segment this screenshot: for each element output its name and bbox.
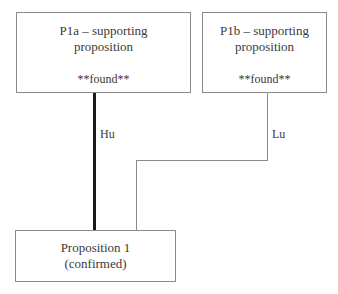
node-p1a-title: P1a – supporting proposition — [17, 23, 190, 55]
node-p1a-status: **found** — [17, 72, 190, 87]
node-p1a-title-line1: P1a – supporting — [17, 23, 190, 39]
node-p1a: P1a – supporting proposition **found** — [16, 12, 191, 93]
edge-p1b-prop1-vertical-lower — [136, 160, 137, 230]
edge-p1b-prop1-vertical-upper — [267, 93, 268, 161]
node-p1b-title-line2: proposition — [203, 39, 326, 55]
node-proposition-1-line2: (confirmed) — [16, 256, 175, 272]
node-p1b: P1b – supporting proposition **found** — [202, 12, 327, 93]
node-proposition-1-line1: Proposition 1 — [16, 240, 175, 256]
edge-p1a-prop1-label: Hu — [100, 127, 115, 142]
node-p1b-title: P1b – supporting proposition — [203, 23, 326, 55]
node-proposition-1-title: Proposition 1 (confirmed) — [16, 240, 175, 272]
node-proposition-1: Proposition 1 (confirmed) — [15, 230, 176, 282]
edge-p1b-prop1-horizontal — [136, 160, 268, 161]
edge-p1a-prop1-line — [93, 93, 96, 230]
node-p1a-title-line2: proposition — [17, 39, 190, 55]
node-p1b-status: **found** — [203, 72, 326, 87]
node-p1b-title-line1: P1b – supporting — [203, 23, 326, 39]
edge-p1b-prop1-label: Lu — [272, 127, 285, 142]
